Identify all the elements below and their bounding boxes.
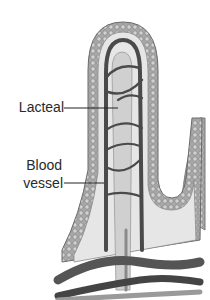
label-lacteal: Lacteal — [10, 99, 64, 115]
villus-illustration — [0, 0, 210, 300]
villus-diagram: Lacteal Blood vessel — [0, 0, 210, 300]
label-vessel: vessel — [10, 175, 63, 191]
label-blood: Blood — [10, 157, 62, 173]
